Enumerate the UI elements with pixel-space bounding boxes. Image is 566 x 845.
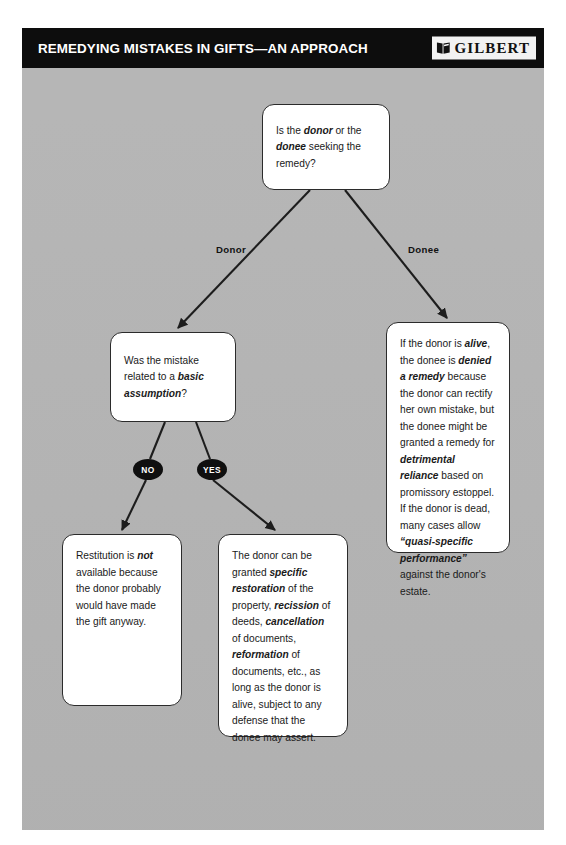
gilbert-logo: GILBERT (432, 37, 536, 60)
page-root: REMEDYING MISTAKES IN GIFTS—AN APPROACH … (0, 0, 566, 845)
node-root-text: Is the donor or the donee seeking the re… (276, 123, 376, 173)
edge-label-donee: Donee (408, 244, 439, 255)
logo-text: GILBERT (454, 41, 530, 56)
badge-yes: YES (197, 459, 227, 480)
page-title: REMEDYING MISTAKES IN GIFTS—AN APPROACH (38, 41, 368, 56)
node-restitution-outcome: Restitution is not available because the… (62, 534, 182, 706)
node-root-question: Is the donor or the donee seeking the re… (262, 104, 390, 190)
header-bar: REMEDYING MISTAKES IN GIFTS—AN APPROACH … (22, 28, 544, 68)
open-book-icon (436, 41, 451, 56)
node-basic-text: Was the mistake related to a basic assum… (124, 353, 222, 403)
edge-label-donor: Donor (216, 244, 246, 255)
node-donee-outcome: If the donor is alive, the donee is deni… (386, 322, 510, 553)
badge-no: NO (133, 459, 163, 480)
node-basic-assumption-question: Was the mistake related to a basic assum… (110, 332, 236, 422)
node-donor-remedy-outcome: The donor can be granted specific restor… (218, 534, 348, 737)
